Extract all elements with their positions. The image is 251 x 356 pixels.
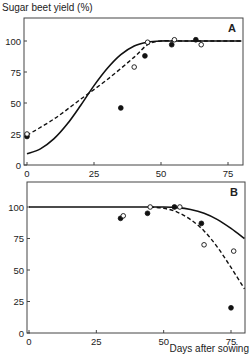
open-data-point — [145, 40, 150, 45]
x-tick-label: 50 — [156, 168, 167, 179]
open-data-point — [172, 37, 177, 42]
y-tick-label: 50 — [13, 265, 24, 276]
open-data-point — [231, 249, 236, 254]
x-tick-label: 25 — [91, 336, 102, 347]
yield-chart-figure: Sugar beet yield (%) 02550751000255075A … — [0, 0, 251, 356]
open-data-point — [178, 205, 183, 210]
y-tick-label: 75 — [13, 233, 24, 244]
open-data-point — [121, 214, 126, 219]
plot-frame — [24, 18, 243, 165]
filled-data-point — [145, 211, 150, 216]
filled-data-point — [169, 42, 174, 47]
panel-b: 02550751000255075B — [8, 182, 245, 347]
x-tick-label: 50 — [158, 336, 169, 347]
filled-data-point — [143, 53, 148, 58]
filled-data-point — [193, 37, 198, 42]
open-data-point — [202, 243, 207, 248]
x-axis-title: Days after sowing — [170, 343, 249, 354]
filled-data-point — [118, 106, 123, 111]
panel-label: B — [230, 186, 238, 198]
filled-data-point — [172, 205, 177, 210]
y-tick-label: 100 — [8, 202, 24, 213]
filled-data-point — [229, 305, 234, 310]
y-tick-label: 0 — [19, 328, 24, 339]
dashed-fit-line — [150, 207, 244, 289]
y-tick-label: 25 — [10, 129, 21, 140]
open-data-point — [199, 42, 204, 47]
x-tick-label: 25 — [89, 168, 100, 179]
y-tick-label: 100 — [5, 36, 21, 47]
open-data-point — [148, 205, 153, 210]
panel-label: A — [228, 22, 236, 34]
open-data-point — [132, 65, 137, 70]
panel-a: 02550751000255075A — [5, 18, 243, 179]
y-tick-label: 0 — [16, 160, 21, 171]
y-axis-title: Sugar beet yield (%) — [2, 2, 93, 13]
dashed-fit-line — [27, 41, 241, 136]
x-tick-label: 0 — [26, 336, 31, 347]
x-tick-label: 75 — [223, 168, 234, 179]
y-tick-label: 50 — [10, 98, 21, 109]
x-tick-label: 0 — [24, 168, 29, 179]
plot-frame — [27, 182, 245, 333]
y-tick-label: 25 — [13, 296, 24, 307]
solid-fit-line — [29, 207, 244, 239]
y-tick-label: 75 — [10, 67, 21, 78]
open-data-point — [25, 132, 30, 137]
filled-data-point — [199, 221, 204, 226]
